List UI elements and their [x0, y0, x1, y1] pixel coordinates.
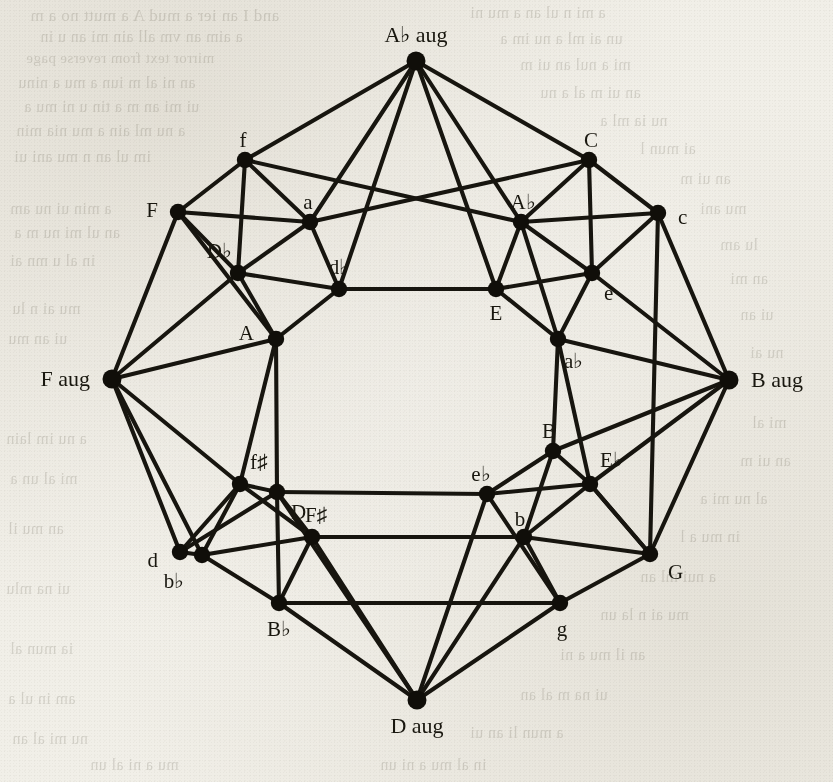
node-label-Ab: A♭: [510, 192, 535, 213]
graph-node-Abaug: [407, 52, 426, 71]
node-label-fs: f♯: [250, 452, 268, 473]
graph-edge: [590, 484, 650, 554]
graph-edge: [560, 554, 650, 603]
graph-edge: [496, 273, 592, 289]
graph-node-g: [552, 595, 568, 611]
graph-node-b: [516, 529, 532, 545]
graph-edge: [521, 222, 592, 273]
graph-edge: [180, 492, 277, 552]
graph-edge: [592, 213, 658, 273]
node-label-bb: b♭: [164, 571, 185, 592]
node-label-G: G: [668, 562, 683, 583]
node-label-a: a: [303, 192, 312, 213]
graph-edge: [276, 339, 277, 492]
graph-node-e: [584, 265, 600, 281]
graph-node-D: [269, 484, 285, 500]
graph-edge: [277, 492, 279, 603]
graph-node-ab: [550, 331, 566, 347]
node-label-db: d♭: [329, 257, 350, 278]
graph-edge: [202, 537, 312, 555]
graph-node-Daug: [408, 691, 427, 710]
graph-node-Eb: [582, 476, 598, 492]
graph-node-fs: [232, 476, 248, 492]
graph-edge: [238, 222, 310, 273]
node-label-Eb: E♭: [600, 450, 623, 471]
graph-node-Baug: [720, 371, 739, 390]
graph-edge: [202, 555, 279, 603]
node-label-E: E: [490, 303, 503, 324]
graph-edge: [524, 537, 650, 554]
graph-edge: [178, 160, 245, 212]
node-label-b: b: [515, 509, 526, 530]
graph-node-F: [170, 204, 186, 220]
node-label-d: d: [148, 550, 159, 571]
node-label-f: f: [240, 130, 247, 151]
graph-edge: [112, 379, 202, 555]
graph-edge: [310, 160, 589, 222]
graph-edge: [238, 273, 339, 289]
graph-edge: [245, 160, 521, 222]
node-label-Db: D♭: [207, 241, 232, 262]
graph-edge: [496, 222, 521, 289]
graph-node-E: [488, 281, 504, 297]
graph-node-Db: [230, 265, 246, 281]
graph-node-Fs: [304, 529, 320, 545]
graph-edge: [417, 537, 524, 700]
graph-edge: [276, 289, 339, 339]
graph-node-a: [302, 214, 318, 230]
graph-node-Ab: [513, 214, 529, 230]
node-label-ab: a♭: [564, 351, 583, 372]
node-label-Fs: F♯: [305, 505, 327, 526]
graph-edge: [417, 603, 560, 700]
chord-network-graph: [0, 0, 833, 782]
graph-edge: [416, 61, 521, 222]
node-label-eb: e♭: [471, 464, 490, 485]
graph-edge: [339, 61, 416, 289]
node-label-Bb: B♭: [267, 619, 291, 640]
graph-edge: [417, 494, 487, 700]
graph-node-Faug: [103, 370, 122, 389]
graph-edge: [279, 537, 312, 603]
graph-edge: [178, 212, 310, 222]
node-label-Faug: F aug: [41, 368, 91, 390]
graph-node-G: [642, 546, 658, 562]
graph-edge: [658, 213, 729, 380]
graph-node-Bb: [271, 595, 287, 611]
graph-node-f: [237, 152, 253, 168]
node-label-D: D: [291, 502, 306, 523]
graph-edge: [112, 212, 178, 379]
graph-node-B: [545, 443, 561, 459]
node-label-Abaug: A♭ aug: [384, 24, 447, 46]
node-label-e: e: [604, 283, 613, 304]
graph-node-A: [268, 331, 284, 347]
node-label-B: B: [542, 421, 556, 442]
graph-edge: [245, 61, 416, 160]
node-label-F: F: [146, 200, 158, 221]
graph-edges: [112, 61, 729, 700]
graph-edge: [279, 603, 417, 700]
node-label-g: g: [557, 619, 568, 640]
graph-node-eb: [479, 486, 495, 502]
node-label-Daug: D aug: [390, 715, 443, 737]
graph-edge: [416, 61, 589, 160]
graph-node-C: [581, 152, 597, 168]
node-label-Baug: B aug: [751, 369, 803, 391]
graph-node-bb: [194, 547, 210, 563]
node-label-C: C: [584, 130, 598, 151]
graph-edge: [277, 492, 487, 494]
node-label-c: c: [678, 207, 687, 228]
node-label-A: A: [239, 323, 254, 344]
graph-edge: [416, 61, 496, 289]
graph-nodes: [103, 52, 739, 710]
graph-node-c: [650, 205, 666, 221]
graph-edge: [589, 160, 658, 213]
graph-edge: [558, 273, 592, 339]
graph-edge: [650, 213, 658, 554]
graph-node-d: [172, 544, 188, 560]
graph-edge: [310, 61, 416, 222]
graph-node-db: [331, 281, 347, 297]
